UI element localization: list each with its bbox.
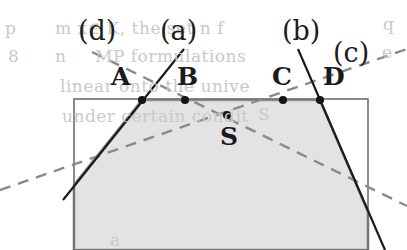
- point-dot-A: [138, 96, 146, 104]
- bleedthrough-text-7: linear onto the unive: [60, 78, 250, 95]
- line-label-b: (b): [282, 17, 320, 44]
- point-dot-D: [316, 96, 324, 104]
- bleedthrough-text-0: p: [5, 20, 16, 37]
- point-dot-B: [181, 96, 189, 104]
- line-label-a: (a): [160, 17, 197, 44]
- bleedthrough-text-10: a: [110, 232, 121, 249]
- bleedthrough-text-4: n: [55, 48, 66, 65]
- bleedthrough-text-3: 8: [8, 48, 19, 65]
- bleedthrough-text-6: e: [382, 44, 393, 61]
- point-label-B: B: [177, 64, 198, 89]
- geometry-figure: pm x∈ K, the set n fq8nMP formulationsel…: [0, 0, 407, 250]
- point-label-S: S: [220, 124, 238, 149]
- bleedthrough-text-9: S: [258, 106, 270, 123]
- point-label-D: D: [323, 64, 345, 89]
- point-label-C: C: [272, 64, 292, 89]
- point-label-A: A: [111, 64, 130, 89]
- point-dot-C: [279, 96, 287, 104]
- bleedthrough-text-2: q: [383, 16, 394, 33]
- line-label-d: (d): [78, 17, 116, 44]
